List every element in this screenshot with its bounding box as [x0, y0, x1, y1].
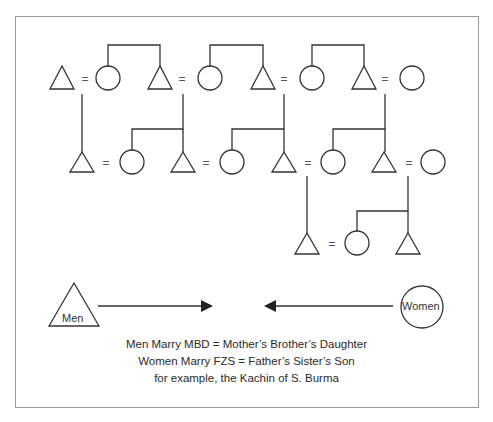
- caption-line-3: for example, the Kachin of S. Burma: [0, 371, 493, 386]
- male-triangle-icon: [372, 152, 396, 172]
- svg-text:=: =: [328, 237, 335, 251]
- male-triangle-icon: [396, 233, 420, 254]
- male-triangle-icon: [352, 66, 376, 89]
- female-circle-icon: [421, 150, 445, 174]
- svg-text:=: =: [102, 156, 109, 170]
- female-circle-icon: [96, 66, 120, 90]
- arrow-right-icon: [201, 300, 213, 312]
- svg-text:=: =: [280, 72, 287, 86]
- men-label: Men: [62, 312, 83, 324]
- sibling-bracket: [108, 45, 160, 66]
- female-circle-icon: [300, 66, 324, 90]
- male-triangle-icon: [171, 152, 195, 172]
- female-circle-icon: [198, 66, 222, 90]
- generation-1: = = = =: [50, 45, 424, 90]
- sibling-bracket: [210, 45, 263, 66]
- female-circle-icon: [120, 150, 144, 174]
- male-triangle-icon: [251, 66, 275, 89]
- female-circle-icon: [400, 66, 424, 90]
- caption-line-1: Men Marry MBD = Mother’s Brother’s Daugh…: [0, 337, 493, 352]
- generation-2: = = = =: [70, 150, 445, 174]
- svg-text:=: =: [304, 156, 311, 170]
- svg-text:=: =: [405, 156, 412, 170]
- male-triangle-icon: [272, 152, 296, 172]
- female-circle-icon: [321, 150, 345, 174]
- generation-3: =: [295, 231, 420, 255]
- male-triangle-icon: [70, 152, 94, 172]
- arrow-left-icon: [264, 300, 276, 312]
- svg-text:=: =: [202, 156, 209, 170]
- male-triangle-icon: [295, 233, 319, 254]
- female-circle-icon: [220, 150, 244, 174]
- female-circle-icon: [345, 231, 369, 255]
- caption-line-2: Women Marry FZS = Father’s Sister’s Son: [0, 354, 493, 369]
- male-triangle-icon: [148, 66, 172, 89]
- svg-text:=: =: [178, 72, 185, 86]
- svg-text:=: =: [81, 72, 88, 86]
- svg-text:=: =: [381, 72, 388, 86]
- sibling-bracket: [312, 45, 364, 66]
- women-label: Women: [402, 300, 440, 312]
- male-triangle-icon: [50, 66, 74, 89]
